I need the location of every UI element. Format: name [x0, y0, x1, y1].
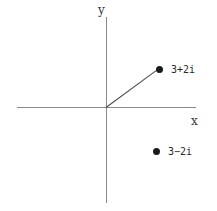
data-point-3plus2i — [156, 66, 163, 73]
data-point-label-3minus2i: 3−2i — [168, 146, 192, 157]
data-point-3minus2i — [153, 148, 160, 155]
y-axis-label: y — [98, 4, 105, 16]
y-axis-line — [106, 17, 107, 203]
complex-plane-figure: y x 3+2i 3−2i — [0, 0, 217, 211]
vector-segment-origin-to-3plus2i — [106, 68, 160, 108]
x-axis-label: x — [191, 115, 198, 127]
data-point-label-3plus2i: 3+2i — [171, 64, 195, 75]
